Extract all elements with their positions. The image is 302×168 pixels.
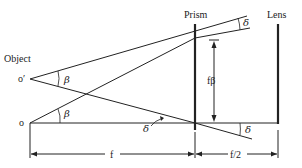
- ray-deflected-lower: [195, 123, 252, 139]
- label-o: o: [19, 117, 24, 128]
- ray-o-upper: [30, 38, 195, 123]
- label-lens: Lens: [267, 9, 287, 20]
- delta-middle-arrowhead: [160, 116, 164, 121]
- dim-f-arrow-right: [188, 152, 194, 157]
- dim-fhalf-arrow-right: [271, 152, 277, 157]
- label-beta-lower: β: [63, 108, 70, 119]
- dim-fhalf-arrow-left: [196, 152, 202, 157]
- label-f-half: f/2: [230, 149, 241, 160]
- label-prism: Prism: [184, 9, 208, 20]
- dim-f-arrow-left: [31, 152, 37, 157]
- label-object: Object: [4, 53, 31, 64]
- ray-deflected-upper: [195, 28, 250, 38]
- prism-lens-diagram: Object o′ o Prism Lens fβ f f/2 β β δ δ …: [0, 0, 302, 168]
- fbeta-arrowhead-up: [212, 41, 217, 48]
- beta-arc-upper: [58, 71, 59, 86]
- label-delta-bottom: δ: [245, 124, 251, 135]
- beta-arc-lower: [58, 109, 60, 123]
- delta-arc-top: [238, 18, 240, 30]
- ray-oprime-lower: [30, 79, 195, 123]
- label-delta-middle: δ: [143, 123, 149, 134]
- label-o-prime: o′: [18, 73, 25, 84]
- label-beta-upper: β: [63, 74, 70, 85]
- label-f-beta: fβ: [207, 75, 215, 86]
- fbeta-arrowhead-down: [212, 115, 217, 122]
- label-delta-top: δ: [243, 17, 249, 28]
- label-f: f: [110, 149, 114, 160]
